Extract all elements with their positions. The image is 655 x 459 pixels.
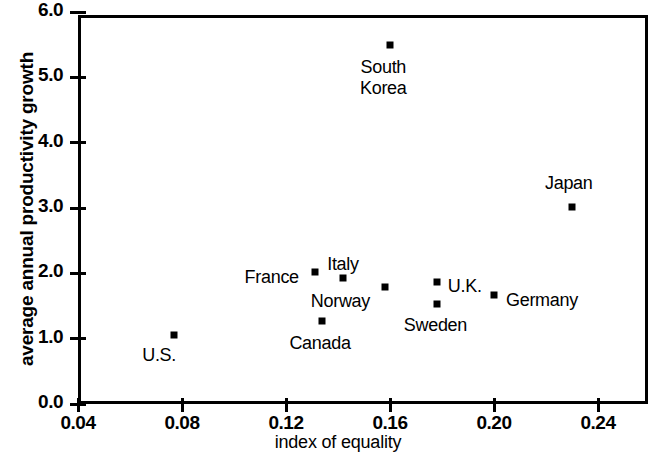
data-point-label: U.S. (142, 345, 176, 366)
data-point-label: Japan (545, 173, 593, 194)
x-tick-label: 0.12 (251, 412, 321, 434)
x-tick-mark (77, 398, 80, 412)
data-point-label: U.K. (448, 276, 482, 297)
data-point-marker (387, 41, 394, 48)
y-tick-label: 5.0 (7, 64, 63, 86)
data-point-label: Canada (289, 333, 350, 354)
x-tick-label: 0.20 (459, 412, 529, 434)
data-point-label: Germany (506, 290, 578, 311)
data-point-marker (569, 203, 576, 210)
x-axis-label: index of equality (78, 432, 598, 453)
x-tick-label: 0.24 (563, 412, 633, 434)
data-point-marker (319, 318, 326, 325)
x-tick-label: 0.08 (147, 412, 217, 434)
data-point-label: SouthKorea (360, 57, 407, 99)
data-point-label: France (245, 267, 299, 288)
y-tick-label: 0.0 (7, 391, 63, 413)
data-point-label: Sweden (404, 315, 467, 336)
y-tick-label: 4.0 (7, 130, 63, 152)
y-tick-label: 2.0 (7, 260, 63, 282)
y-tick-mark (70, 76, 86, 79)
y-tick-mark (70, 272, 86, 275)
data-point-marker (171, 332, 178, 339)
x-tick-label: 0.16 (355, 412, 425, 434)
x-tick-mark (493, 398, 496, 412)
data-point-marker (433, 278, 440, 285)
data-point-marker (381, 284, 388, 291)
x-tick-mark (181, 398, 184, 412)
y-tick-mark (70, 207, 86, 210)
y-tick-label: 3.0 (7, 195, 63, 217)
x-tick-mark (389, 398, 392, 412)
scatter-chart: average annual productivity growth 0.01.… (0, 0, 655, 459)
data-point-label: Italy (327, 254, 359, 275)
data-point-label: Norway (311, 291, 370, 312)
y-tick-label: 6.0 (7, 0, 63, 21)
data-point-marker (311, 269, 318, 276)
data-point-marker (433, 301, 440, 308)
x-tick-mark (285, 398, 288, 412)
y-tick-label: 1.0 (7, 326, 63, 348)
data-point-marker (491, 291, 498, 298)
x-tick-mark (597, 398, 600, 412)
y-tick-mark (70, 11, 86, 14)
data-point-marker (340, 274, 347, 281)
x-tick-label: 0.04 (43, 412, 113, 434)
y-tick-mark (70, 141, 86, 144)
y-tick-mark (70, 337, 86, 340)
